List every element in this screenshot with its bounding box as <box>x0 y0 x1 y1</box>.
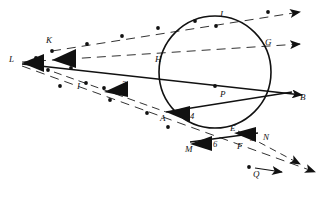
angle-marker-6 <box>190 136 212 151</box>
point-label-J: J <box>219 9 224 19</box>
point-label-L: L <box>8 54 14 64</box>
angle-4-label: 4 <box>190 111 195 121</box>
dot-A-low <box>166 125 170 129</box>
point-label-Q: Q <box>253 169 260 179</box>
dot-below-K <box>46 68 50 72</box>
point-label-N: N <box>262 132 270 142</box>
angle-marker-2 <box>52 49 76 68</box>
diagram-canvas: LKIHJGBAMEFNPQ 123456 <box>0 0 320 197</box>
dots-layer <box>34 10 270 169</box>
dot-I2 <box>102 86 106 90</box>
dot-up-2 <box>120 34 124 38</box>
point-label-M: M <box>184 144 193 154</box>
dot-mid-1 <box>58 84 62 88</box>
point-label-F: F <box>236 141 243 151</box>
dot-up-1 <box>85 42 89 46</box>
dot-mid-3 <box>145 111 149 115</box>
point-label-H: H <box>154 54 162 64</box>
point-label-I: I <box>76 81 81 91</box>
point-label-E: E <box>229 123 236 133</box>
point-label-B: B <box>300 92 306 102</box>
angle-markers-group <box>22 49 256 151</box>
dot-L-vertex <box>34 56 38 60</box>
angle-5-label: 5 <box>250 133 254 143</box>
ray-L-through-A-M-to-Q <box>22 66 315 172</box>
rays-group <box>22 12 315 172</box>
point-label-K: K <box>45 35 53 45</box>
dot-mid-2 <box>108 98 112 102</box>
geometry-figure: LKIHJGBAMEFNPQ 123456 <box>0 0 320 197</box>
dot-up-3 <box>156 26 160 30</box>
dot-Q <box>247 165 251 169</box>
dot-J <box>214 24 218 28</box>
dot-up-4 <box>193 19 197 23</box>
angle-6-label: 6 <box>213 139 218 149</box>
point-label-A: A <box>159 113 166 123</box>
dot-P-center <box>213 84 217 88</box>
dot-up-5 <box>266 10 270 14</box>
point-label-P: P <box>219 89 226 99</box>
point-label-G: G <box>265 37 272 47</box>
dot-K2 <box>69 66 73 70</box>
dot-K <box>50 49 54 53</box>
angle-3-label: 3 <box>121 79 126 89</box>
dot-I <box>84 81 88 85</box>
angle-1-label: 1 <box>40 58 44 68</box>
